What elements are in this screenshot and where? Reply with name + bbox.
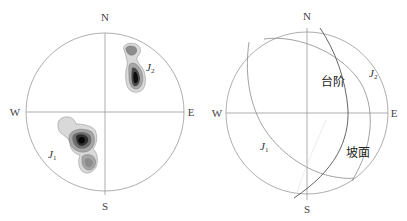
left-south-label: S <box>102 200 108 212</box>
right-j1-label: J 1 <box>260 140 269 154</box>
j2-pole-contours <box>124 43 146 92</box>
svg-text:2: 2 <box>151 67 155 75</box>
left-east-label: E <box>188 106 195 118</box>
slope-label: 坡面 <box>346 146 370 160</box>
bench-label: 台阶 <box>321 74 345 89</box>
right-north-label: N <box>303 10 311 22</box>
left-north-label: N <box>101 11 109 23</box>
svg-text:1: 1 <box>53 154 57 162</box>
svg-text:1: 1 <box>265 146 269 154</box>
left-west-label: W <box>10 106 21 118</box>
svg-text:2: 2 <box>374 73 378 81</box>
right-west-label: W <box>212 107 223 119</box>
left-stereonet: N S W E J 2 J 1 <box>10 11 195 212</box>
right-j2-label: J 2 <box>369 67 378 81</box>
right-east-label: E <box>391 107 398 119</box>
faint-trace-line <box>296 120 326 196</box>
j1-pole-contours <box>58 117 98 173</box>
right-stereonet: N S W E J 1 J 2 台阶 坡面 <box>212 10 398 215</box>
right-south-label: S <box>304 203 310 215</box>
stereonet-figure: N S W E J 2 J 1 <box>0 0 407 221</box>
j2-label: J 2 <box>146 61 155 75</box>
j1-label: J 1 <box>48 148 57 162</box>
